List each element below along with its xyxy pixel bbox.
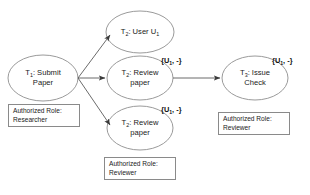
authorized-role-reviewer-right: Authorized Role: Reviewer <box>218 112 290 135</box>
edge-label-issue-check: {U1, -} <box>272 56 293 65</box>
role-reviewer-right-line2: Reviewer <box>223 124 286 133</box>
edge-submit-to-user <box>78 35 110 78</box>
diagram-canvas: T1: Submit Paper T2: User U1 T2: Review … <box>0 0 310 195</box>
authorized-role-researcher: Authorized Role: Researcher <box>8 104 80 127</box>
authorized-role-reviewer-bottom: Authorized Role: Reviewer <box>104 157 176 180</box>
edge-label-review-bottom: {U1, -} <box>161 105 182 114</box>
role-reviewer-right-line1: Authorized Role: <box>223 115 286 124</box>
role-reviewer-bottom-line2: Reviewer <box>109 169 172 178</box>
ellipse-submit-paper <box>8 55 78 101</box>
edge-label-review-top: {U1, -} <box>161 56 182 65</box>
role-reviewer-bottom-line1: Authorized Role: <box>109 160 172 169</box>
role-researcher-line1: Authorized Role: <box>13 107 76 116</box>
ellipse-user-u1 <box>106 11 174 53</box>
edge-submit-to-review-bottom <box>78 78 110 125</box>
role-researcher-line2: Researcher <box>13 116 76 125</box>
